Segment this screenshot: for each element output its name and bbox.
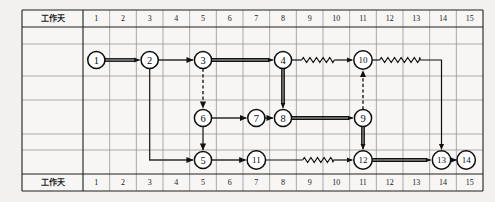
header-top-label: 工作天: [41, 13, 66, 23]
header-bottom-day-11: 11: [359, 178, 367, 187]
node-label-14: 14: [462, 155, 472, 165]
node-label-13: 13: [437, 155, 447, 165]
header-top-day-1: 1: [94, 14, 98, 23]
node-label-3: 3: [200, 55, 205, 66]
node-label-9: 9: [360, 113, 365, 124]
node-label-10: 10: [359, 55, 369, 65]
node-12[interactable]: 12: [354, 151, 372, 169]
header-bottom-day-14: 14: [439, 178, 447, 187]
node-7[interactable]: 7: [248, 109, 265, 126]
node-10[interactable]: 10: [354, 51, 372, 69]
header-top-day-6: 6: [228, 14, 232, 23]
node-label-7: 7: [254, 113, 259, 124]
edge-4-to-8: [282, 69, 285, 108]
node-1[interactable]: 1: [88, 51, 105, 68]
header-top-day-8: 8: [281, 14, 285, 23]
node-label-4: 4: [280, 55, 286, 66]
edge-1-to-2: [105, 59, 140, 62]
header-bottom-day-9: 9: [308, 178, 312, 187]
node-9[interactable]: 9: [354, 109, 371, 126]
header-top-day-15: 15: [466, 14, 474, 23]
node-11[interactable]: 11: [247, 151, 265, 169]
header-bottom-day-4: 4: [174, 178, 178, 187]
header-bottom-day-15: 15: [466, 178, 474, 187]
node-2[interactable]: 2: [141, 51, 158, 68]
header-top-day-3: 3: [148, 14, 152, 23]
header-bottom-day-13: 13: [412, 178, 420, 187]
header-bottom-day-8: 8: [281, 178, 285, 187]
header-bottom-day-12: 12: [386, 178, 394, 187]
header-bottom-day-2: 2: [121, 178, 125, 187]
header-top-day-12: 12: [386, 14, 394, 23]
node-label-12: 12: [359, 155, 368, 165]
header-bottom-day-6: 6: [228, 178, 232, 187]
node-14[interactable]: 14: [457, 151, 475, 169]
node-label-1: 1: [94, 55, 99, 66]
edge-3-to-4: [212, 59, 273, 62]
header-bottom-day-3: 3: [148, 178, 152, 187]
header-top-day-4: 4: [174, 14, 178, 23]
node-label-8: 8: [280, 113, 285, 124]
header-top-day-14: 14: [439, 14, 447, 23]
header-top-day-11: 11: [359, 14, 367, 23]
network-diagram-page: 工作天123456789101112131415 工作天123456789101…: [0, 0, 495, 202]
header-top-day-5: 5: [201, 14, 205, 23]
network-diagram-canvas: 工作天123456789101112131415 工作天123456789101…: [0, 0, 495, 202]
header-top-day-9: 9: [308, 14, 312, 23]
node-6[interactable]: 6: [194, 109, 211, 126]
node-label-2: 2: [147, 55, 152, 66]
header-bottom-label: 工作天: [41, 177, 66, 187]
edge-8-to-9: [292, 117, 353, 120]
node-label-5: 5: [200, 155, 205, 166]
header-bottom-day-1: 1: [94, 178, 98, 187]
header-top-day-13: 13: [412, 14, 420, 23]
header-bottom-day-5: 5: [201, 178, 205, 187]
node-5[interactable]: 5: [194, 151, 211, 168]
node-label-11: 11: [252, 155, 261, 165]
node-label-6: 6: [200, 113, 205, 124]
node-8[interactable]: 8: [274, 109, 291, 126]
edge-12-to-13: [372, 159, 431, 162]
node-13[interactable]: 13: [432, 151, 450, 169]
header-top-day-7: 7: [254, 14, 258, 23]
header-bottom-day-7: 7: [254, 178, 258, 187]
header-top-day-2: 2: [121, 14, 125, 23]
node-3[interactable]: 3: [194, 51, 211, 68]
node-4[interactable]: 4: [274, 51, 291, 68]
header-bottom-day-10: 10: [332, 178, 340, 187]
header-top-day-10: 10: [332, 14, 340, 23]
